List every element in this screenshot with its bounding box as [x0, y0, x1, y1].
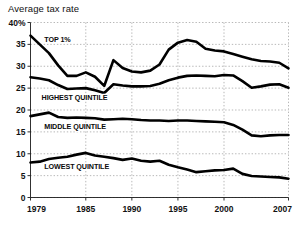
- chart-axes: [28, 23, 289, 201]
- y-axis-tick-label: 40%: [8, 18, 25, 28]
- series-inline-label: LOWEST QUINTILE: [44, 162, 109, 171]
- series-inline-label: TOP 1%: [44, 35, 71, 44]
- x-axis-tick-labels: 197919851990199520002007: [27, 204, 292, 214]
- x-axis-tick-label: 1979: [27, 204, 46, 214]
- series-line: [31, 75, 289, 93]
- y-axis-tick-labels: 0510152025303540%: [8, 18, 25, 203]
- series-inline-label: MIDDLE QUINTILE: [44, 122, 106, 131]
- y-axis-tick-label: 5: [21, 171, 26, 181]
- y-axis-tick-label: 30: [16, 61, 26, 71]
- horizontal-gridlines: [31, 23, 289, 198]
- y-axis-tick-label: 10: [16, 149, 26, 159]
- x-axis-tick-label: 1995: [168, 204, 187, 214]
- chart-plot-area: 0510152025303540% 1979198519901995200020…: [0, 0, 303, 226]
- x-axis-tick-label: 1985: [76, 204, 95, 214]
- y-axis-tick-label: 0: [21, 193, 26, 203]
- y-axis-tick-label: 35: [16, 39, 26, 49]
- y-axis-tick-label: 15: [16, 127, 26, 137]
- series-inline-label: HIGHEST QUINTILE: [42, 93, 108, 102]
- chart-series-lines: [31, 36, 289, 179]
- y-axis-tick-label: 20: [16, 105, 26, 115]
- x-axis-tick-label: 1990: [122, 204, 141, 214]
- y-axis-tick-label: 25: [16, 83, 26, 93]
- chart-container: Average tax rate 0510152025303540% 19791…: [0, 0, 303, 226]
- x-axis-tick-label: 2000: [215, 204, 234, 214]
- x-axis-tick-label: 2007: [273, 204, 292, 214]
